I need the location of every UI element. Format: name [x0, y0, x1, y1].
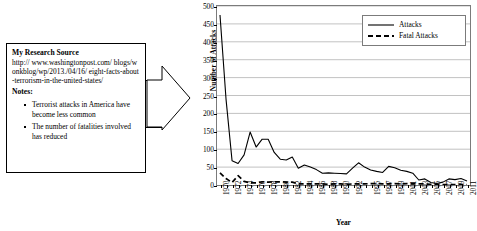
x-axis-tick-mark	[396, 185, 397, 188]
notes-list: Terrorist attacks in America have become…	[12, 100, 140, 141]
y-axis-tick-mark	[214, 79, 217, 80]
x-axis-tick-mark	[257, 185, 258, 188]
notes-heading: Notes:	[12, 87, 140, 97]
x-axis-tick-mark	[227, 185, 228, 188]
research-source-box: My Research Source http:// www.washingto…	[6, 43, 146, 173]
x-axis-tick-mark	[432, 185, 433, 188]
y-axis-tick-label: 350	[203, 57, 214, 64]
x-axis-tick-mark	[366, 185, 367, 188]
y-axis-tick-label: 100	[203, 146, 214, 153]
x-axis-tick-mark	[323, 185, 324, 188]
legend-label-fatal-attacks: Fatal Attacks	[399, 32, 438, 40]
x-axis-tick-mark	[221, 185, 222, 188]
y-axis-tick-label: 300	[203, 75, 214, 82]
x-axis-tick-mark	[408, 185, 409, 188]
x-axis-tick-label: 2011	[471, 181, 477, 195]
x-axis-tick-mark	[378, 185, 379, 188]
x-axis-tick-mark	[444, 185, 445, 188]
y-axis-tick-label: 500	[203, 3, 214, 10]
x-axis-tick-mark	[348, 185, 349, 188]
x-axis-tick-mark	[233, 185, 234, 188]
x-axis-tick-mark	[384, 185, 385, 188]
x-axis-tick-mark	[275, 185, 276, 188]
y-axis-tick-mark	[214, 7, 217, 8]
y-axis-tick-mark	[214, 132, 217, 133]
y-axis-tick-mark	[214, 61, 217, 62]
y-axis-tick-label: 50	[207, 164, 214, 171]
research-source-url: http:// www.washingtonpost.com/ blogs/wo…	[12, 58, 140, 86]
legend-swatch-dashed-icon	[368, 32, 394, 40]
y-axis-tick-mark	[214, 114, 217, 115]
legend-item-fatal-attacks: Fatal Attacks	[368, 30, 460, 41]
x-axis-tick-mark	[450, 185, 451, 188]
line-chart: Number of Attacks 0501001502002503003504…	[184, 0, 477, 231]
x-axis-tick-mark	[360, 185, 361, 188]
x-axis-tick-mark	[239, 185, 240, 188]
x-axis-tick-mark	[311, 185, 312, 188]
x-axis-tick-mark	[468, 185, 469, 188]
legend-label-attacks: Attacks	[399, 21, 422, 29]
x-axis-tick-mark	[426, 185, 427, 188]
x-axis-tick-mark	[372, 185, 373, 188]
list-item: The number of fatalities involved has re…	[24, 122, 140, 141]
legend-item-attacks: Attacks	[368, 19, 460, 30]
y-axis-tick-mark	[214, 168, 217, 169]
figure-root: My Research Source http:// www.washingto…	[0, 0, 477, 231]
y-axis-tick-label: 150	[203, 129, 214, 136]
x-axis-tick-mark	[354, 185, 355, 188]
x-axis-tick-mark	[420, 185, 421, 188]
x-axis-tick-mark	[390, 185, 391, 188]
x-axis-tick-mark	[402, 185, 403, 188]
x-axis-tick-mark	[251, 185, 252, 188]
legend-swatch-solid-icon	[368, 21, 394, 29]
y-axis-tick-label: 450	[203, 21, 214, 28]
x-axis-tick-mark	[287, 185, 288, 188]
x-axis-tick-mark	[263, 185, 264, 188]
research-source-title: My Research Source	[12, 48, 140, 58]
y-axis-tick-mark	[214, 25, 217, 26]
x-axis-tick-mark	[456, 185, 457, 188]
y-axis-tick-label: 200	[203, 111, 214, 118]
x-axis-tick-mark	[438, 185, 439, 188]
y-axis-tick-mark	[214, 97, 217, 98]
list-item: Terrorist attacks in America have become…	[24, 100, 140, 119]
x-axis-tick-mark	[462, 185, 463, 188]
chart-legend: Attacks Fatal Attacks	[362, 15, 466, 46]
x-axis-tick-mark	[245, 185, 246, 188]
x-axis-tick-mark	[414, 185, 415, 188]
plot-area: 050100150200250300350400450500 197019721…	[216, 5, 471, 186]
y-axis-tick-mark	[214, 43, 217, 44]
x-axis-tick-mark	[299, 185, 300, 188]
x-axis-label: Year	[216, 218, 471, 227]
y-axis-tick-label: 250	[203, 93, 214, 100]
y-axis-tick-mark	[214, 150, 217, 151]
x-axis-tick-mark	[335, 185, 336, 188]
y-axis-tick-mark	[214, 186, 217, 187]
y-axis-tick-label: 400	[203, 39, 214, 46]
